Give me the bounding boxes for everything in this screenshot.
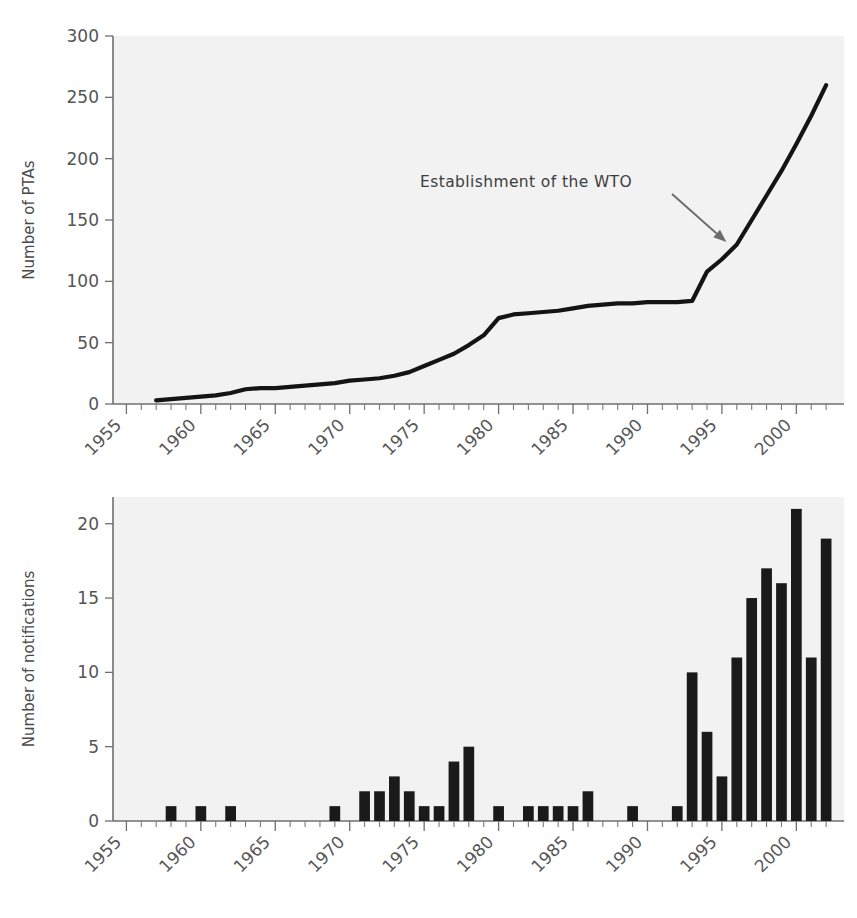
bar-item <box>166 806 177 821</box>
bar-item <box>702 732 713 821</box>
bar-item <box>195 806 206 821</box>
bar-y-ticklabel: 0 <box>88 811 99 831</box>
bar-item <box>687 672 698 821</box>
bar-item <box>329 806 340 821</box>
bar-x-ticklabel: 1960 <box>155 832 200 877</box>
bar-x-ticks <box>126 821 826 831</box>
bar-x-ticklabel: 1990 <box>602 832 647 877</box>
charts-svg: 050100150200250300 195519601965197019751… <box>0 0 857 918</box>
line-x-ticklabel: 1975 <box>378 415 423 460</box>
line-x-ticklabel: 1985 <box>527 415 572 460</box>
bar-item <box>389 776 400 821</box>
bar-item <box>791 509 802 821</box>
line-y-ticklabel: 0 <box>88 394 99 414</box>
bar-x-ticklabel: 1970 <box>304 832 349 877</box>
bar-item <box>568 806 579 821</box>
bar-item <box>553 806 564 821</box>
line-x-ticklabel: 1980 <box>453 415 498 460</box>
bar-x-ticklabel: 2000 <box>750 832 795 877</box>
bar-x-ticklabel: 1975 <box>378 832 423 877</box>
bar-y-axis-label: Number of notifications <box>20 571 38 748</box>
bar-item <box>434 806 445 821</box>
bar-chart-panel: 05101520 1955196019651970197519801985199… <box>20 497 844 876</box>
line-y-axis-label: Number of PTAs <box>20 160 38 280</box>
bar-item <box>404 791 415 821</box>
line-x-ticklabels: 1955196019651970197519801985199019952000 <box>80 415 795 460</box>
bar-y-ticklabel: 10 <box>77 662 99 682</box>
line-x-ticklabel: 1995 <box>676 415 721 460</box>
bar-item <box>731 658 742 821</box>
bar-y-ticks <box>105 524 113 821</box>
bar-item <box>463 747 474 821</box>
figure-container: 050100150200250300 195519601965197019751… <box>0 0 857 918</box>
line-y-ticklabel: 200 <box>67 149 99 169</box>
bar-item <box>523 806 534 821</box>
wto-annotation-text: Establishment of the WTO <box>420 173 632 191</box>
bar-item <box>717 776 728 821</box>
line-x-ticklabel: 2000 <box>750 415 795 460</box>
bar-item <box>449 762 460 821</box>
line-y-ticklabel: 100 <box>67 271 99 291</box>
bar-x-ticklabel: 1995 <box>676 832 721 877</box>
bar-item <box>493 806 504 821</box>
bar-item <box>374 791 385 821</box>
bar-x-ticklabels: 1955196019651970197519801985199019952000 <box>80 832 795 877</box>
bar-item <box>776 583 787 821</box>
bar-item <box>806 658 817 821</box>
bar-x-ticklabel: 1985 <box>527 832 572 877</box>
bar-item <box>359 791 370 821</box>
line-y-ticklabel: 250 <box>67 87 99 107</box>
bar-item <box>419 806 430 821</box>
bar-y-ticklabel: 5 <box>88 737 99 757</box>
bar-item <box>821 539 832 821</box>
line-x-ticklabel: 1965 <box>229 415 274 460</box>
line-y-ticklabels: 050100150200250300 <box>67 26 99 414</box>
line-x-ticklabel: 1990 <box>602 415 647 460</box>
line-chart-panel: 050100150200250300 195519601965197019751… <box>20 26 844 459</box>
line-x-ticks <box>126 404 826 414</box>
bar-item <box>627 806 638 821</box>
bar-item <box>746 598 757 821</box>
bar-item <box>672 806 683 821</box>
bar-item <box>225 806 236 821</box>
bar-item <box>761 568 772 821</box>
line-y-ticklabel: 50 <box>77 333 99 353</box>
line-x-ticklabel: 1960 <box>155 415 200 460</box>
line-plot-background <box>113 36 844 404</box>
line-x-ticklabel: 1970 <box>304 415 349 460</box>
bar-y-ticklabels: 05101520 <box>77 514 99 831</box>
line-y-ticklabel: 150 <box>67 210 99 230</box>
bar-x-ticklabel: 1965 <box>229 832 274 877</box>
bar-y-ticklabel: 20 <box>77 514 99 534</box>
bar-x-ticklabel: 1980 <box>453 832 498 877</box>
bar-item <box>583 791 594 821</box>
line-y-ticklabel: 300 <box>67 26 99 46</box>
line-y-ticks <box>105 36 113 404</box>
line-x-ticklabel: 1955 <box>80 415 125 460</box>
bar-x-ticklabel: 1955 <box>80 832 125 877</box>
bar-item <box>538 806 549 821</box>
bar-y-ticklabel: 15 <box>77 588 99 608</box>
